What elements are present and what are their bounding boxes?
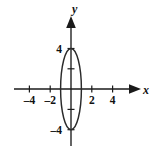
y-tick-label-pos4: 4 bbox=[56, 43, 62, 55]
coordinate-plane-graphic: –4 –2 2 4 4 –4 x y bbox=[0, 0, 151, 159]
graph-figure: –4 –2 2 4 4 –4 x y bbox=[0, 0, 151, 159]
x-tick-label-pos4: 4 bbox=[110, 94, 116, 106]
x-axis-label: x bbox=[142, 83, 149, 97]
x-tick-label-pos2: 2 bbox=[89, 94, 95, 106]
x-tick-label-neg2: –2 bbox=[43, 94, 56, 106]
y-tick-label-neg4: –4 bbox=[50, 124, 63, 136]
x-axis-arrowhead bbox=[129, 84, 141, 94]
x-axis-group bbox=[14, 84, 141, 94]
y-axis-label: y bbox=[70, 2, 78, 16]
x-tick-label-neg4: –4 bbox=[23, 94, 36, 106]
y-axis-arrowhead bbox=[66, 16, 76, 28]
